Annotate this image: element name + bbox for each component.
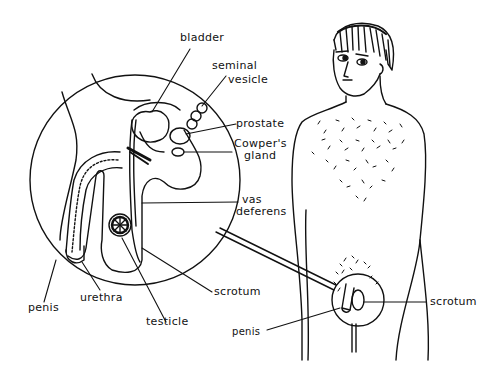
label-prostate: prostate — [236, 118, 284, 129]
label-scrotum-inset: scrotum — [214, 286, 261, 297]
chest-hair — [312, 118, 404, 201]
label-seminal-vesicle-2: vesicle — [228, 74, 268, 85]
label-urethra: urethra — [80, 292, 123, 303]
label-bladder: bladder — [180, 32, 224, 43]
label-cowpers-gland-1: Cowper's — [234, 138, 287, 149]
anatomy-drawing — [0, 0, 504, 373]
label-penis-inset: penis — [28, 302, 59, 313]
label-vas-deferens-2: deferens — [236, 206, 287, 217]
label-scrotum-figure: scrotum — [430, 296, 477, 307]
connector-line — [216, 232, 334, 290]
figure-inset-circle — [332, 274, 384, 352]
label-testicle: testicle — [146, 316, 188, 327]
label-vas-deferens-1: vas — [242, 194, 262, 205]
testicle-drawing — [109, 214, 131, 236]
inset-circle — [30, 74, 240, 285]
label-seminal-vesicle-1: seminal — [212, 60, 257, 71]
label-penis-figure: penis — [232, 326, 260, 337]
label-cowpers-gland-2: gland — [244, 150, 276, 161]
